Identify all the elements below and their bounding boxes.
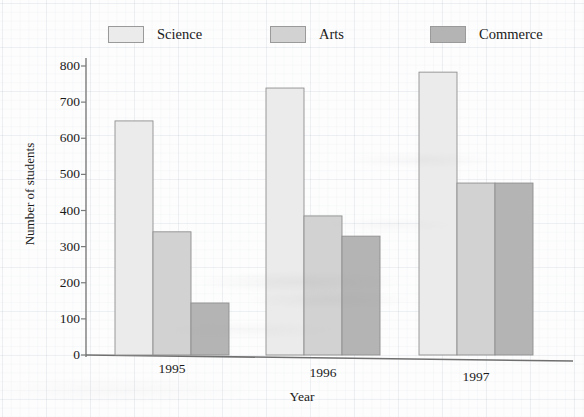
bar-science-1997 [419, 72, 457, 355]
x-tick-label-1996: 1996 [288, 366, 358, 380]
y-tick-label-100: 100 [46, 312, 80, 326]
bar-chart: Science Arts Commerce 800700600500400300… [0, 0, 584, 417]
bar-commerce-1996 [342, 236, 380, 355]
bar-arts-1995 [153, 232, 191, 355]
bar-commerce-1995 [191, 303, 229, 355]
x-tick-label-1995: 1995 [137, 362, 207, 376]
bar-arts-1997 [457, 183, 495, 355]
y-tick-label-400: 400 [46, 204, 80, 218]
bar-science-1995 [115, 121, 153, 355]
bar-arts-1996 [304, 216, 342, 355]
y-tick-label-800: 800 [46, 59, 80, 73]
scanned-page: Science Arts Commerce 800700600500400300… [0, 0, 584, 417]
x-axis-title: Year [272, 389, 332, 405]
bar-science-1996 [266, 88, 304, 355]
bar-commerce-1997 [495, 183, 533, 355]
y-tick-label-300: 300 [46, 240, 80, 254]
y-tick-label-200: 200 [46, 276, 80, 290]
y-axis-tick-labels: 8007006005004003002001000 [46, 0, 80, 417]
y-tick-label-700: 700 [46, 95, 80, 109]
y-axis-title: Number of students [22, 124, 38, 264]
y-tick-label-500: 500 [46, 167, 80, 181]
plot-canvas [0, 0, 584, 417]
y-tick-label-0: 0 [46, 348, 80, 362]
y-tick-label-600: 600 [46, 131, 80, 145]
x-tick-label-1997: 1997 [441, 370, 511, 384]
